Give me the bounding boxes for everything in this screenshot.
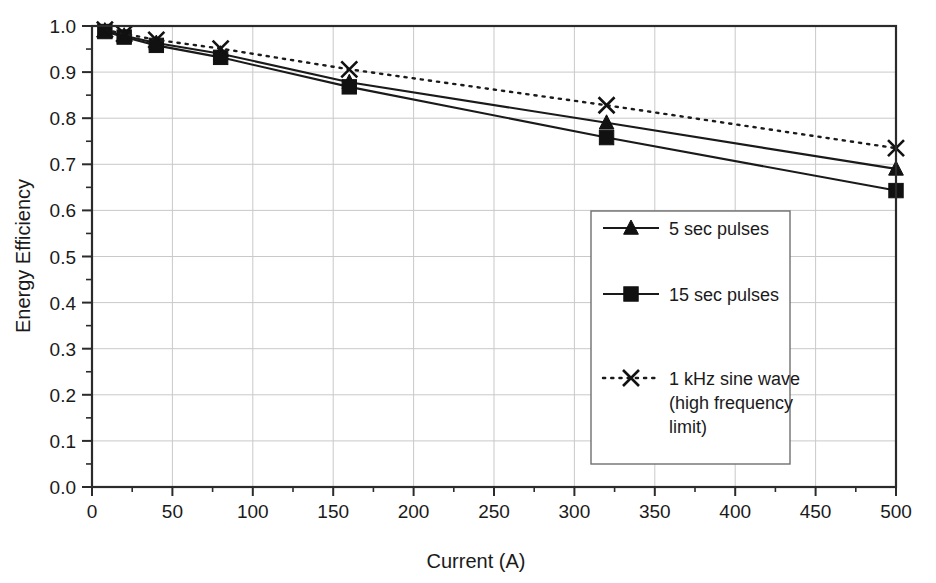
legend-label: 15 sec pulses [669, 285, 779, 305]
chart-background [0, 0, 936, 583]
legend-label: limit) [669, 417, 707, 437]
data-point-marker-square [599, 130, 613, 144]
x-tick-label: 450 [800, 501, 832, 522]
x-tick-label: 0 [87, 501, 98, 522]
legend-label: 1 kHz sine wave [669, 369, 800, 389]
x-tick-label: 100 [237, 501, 269, 522]
y-tick-label: 0.6 [50, 200, 76, 221]
legend-entry-4: (high frequency [669, 393, 793, 413]
y-tick-label: 0.5 [50, 247, 76, 268]
chart-container: 050100150200250300350400450500 0.00.10.2… [0, 0, 936, 583]
y-tick-label: 0.9 [50, 62, 76, 83]
data-point-marker-square [342, 80, 356, 94]
y-tick-label: 0.0 [50, 477, 76, 498]
x-tick-label: 200 [398, 501, 430, 522]
y-tick-label: 1.0 [50, 16, 76, 37]
y-tick-label: 0.7 [50, 154, 76, 175]
legend-label: 5 sec pulses [669, 219, 769, 239]
y-tick-label: 0.3 [50, 339, 76, 360]
y-tick-label: 0.2 [50, 385, 76, 406]
x-tick-label: 50 [162, 501, 183, 522]
legend-entry-5: limit) [669, 417, 707, 437]
x-tick-label: 300 [559, 501, 591, 522]
y-tick-label: 0.4 [50, 293, 77, 314]
x-tick-label: 250 [478, 501, 510, 522]
x-tick-label: 150 [317, 501, 349, 522]
y-axis-title: Energy Efficiency [12, 179, 34, 333]
legend-label: (high frequency [669, 393, 793, 413]
x-tick-label: 500 [880, 501, 912, 522]
energy-efficiency-line-chart: 050100150200250300350400450500 0.00.10.2… [0, 0, 936, 583]
x-tick-label: 350 [639, 501, 671, 522]
x-tick-label: 400 [719, 501, 751, 522]
y-tick-label: 0.8 [50, 108, 76, 129]
data-point-marker-square [624, 287, 638, 301]
y-tick-label: 0.1 [50, 431, 76, 452]
x-axis-title: Current (A) [427, 550, 526, 572]
chart-legend: 5 sec pulses15 sec pulses1 kHz sine wave… [591, 211, 800, 464]
